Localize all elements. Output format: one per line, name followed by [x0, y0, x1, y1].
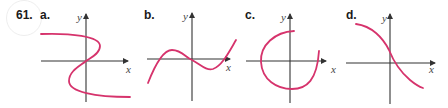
panel-d-y-label: y	[381, 12, 387, 24]
panel-b-x-label: x	[225, 61, 231, 73]
panel-c-y-label: y	[280, 11, 286, 23]
panel-a-x-label: x	[125, 63, 131, 75]
graphs-canvas: x y x y x y x y	[0, 0, 448, 108]
panel-b-graph: x y	[147, 10, 236, 101]
panel-c-x-label: x	[330, 63, 336, 75]
panel-b-y-label: y	[182, 10, 188, 22]
panel-c-graph: x y	[246, 11, 336, 103]
panel-a-graph: x y	[41, 11, 131, 102]
panel-a-y-label: y	[76, 11, 82, 23]
panel-d-x-label: x	[428, 63, 434, 75]
panel-d-graph: x y	[346, 12, 435, 104]
